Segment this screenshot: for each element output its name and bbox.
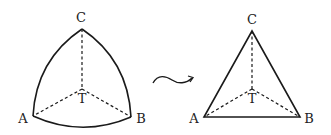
label-b-right: B bbox=[304, 111, 314, 126]
curved-triangle: C A B T bbox=[17, 10, 145, 127]
squiggle-arrow-icon bbox=[153, 76, 193, 83]
label-c-left: C bbox=[76, 10, 86, 25]
label-a-right: A bbox=[188, 111, 199, 126]
dashed-bt bbox=[82, 89, 131, 117]
label-a-left: A bbox=[17, 111, 28, 126]
dashed-at bbox=[33, 89, 82, 116]
label-b-left: B bbox=[136, 111, 146, 126]
label-c-right: C bbox=[247, 12, 257, 27]
diagram: C A B T C A B T bbox=[0, 0, 331, 135]
edge-ab-curved bbox=[33, 116, 131, 127]
edge-cb-curved bbox=[82, 29, 131, 117]
label-t-left: T bbox=[78, 91, 87, 106]
label-t-right: T bbox=[248, 91, 257, 106]
straight-triangle: C A B T bbox=[188, 12, 313, 126]
